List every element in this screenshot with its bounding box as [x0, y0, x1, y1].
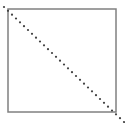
diagonal-dot — [35, 37, 37, 39]
diagonal-dot — [27, 29, 29, 31]
diagonal-dot — [87, 86, 89, 88]
diagonal-dot — [107, 106, 109, 108]
diagram-canvas — [0, 0, 125, 131]
diagonal-dot — [79, 79, 81, 81]
diagonal-dot — [103, 102, 105, 104]
diagonal-dot — [19, 21, 21, 23]
diagonal-dot — [119, 117, 121, 119]
diagonal-dot — [3, 6, 5, 8]
diagonal-dot — [91, 90, 93, 92]
square-outline — [8, 9, 116, 112]
diagonal-dot — [67, 67, 69, 69]
dotted-diagonal-line — [3, 6, 125, 123]
diagonal-dot — [23, 25, 25, 27]
diagonal-dot — [55, 56, 57, 58]
diagonal-dot — [99, 98, 101, 100]
diagonal-dot — [31, 33, 33, 35]
diagonal-dot — [123, 121, 125, 123]
diagonal-dot — [51, 52, 53, 54]
diagonal-dot — [11, 14, 13, 16]
diagonal-dot — [15, 17, 17, 19]
diagonal-dot — [63, 63, 65, 65]
diagonal-dot — [111, 109, 113, 111]
diagonal-dot — [83, 83, 85, 85]
diagonal-dot — [95, 94, 97, 96]
diagonal-dot — [39, 40, 41, 42]
diagonal-dot — [59, 60, 61, 62]
diagonal-dot — [43, 44, 45, 46]
diagonal-dot — [71, 71, 73, 73]
diagonal-dot — [7, 10, 9, 12]
diagonal-dot — [115, 113, 117, 115]
diagonal-dot — [75, 75, 77, 77]
diagonal-dot — [47, 48, 49, 50]
